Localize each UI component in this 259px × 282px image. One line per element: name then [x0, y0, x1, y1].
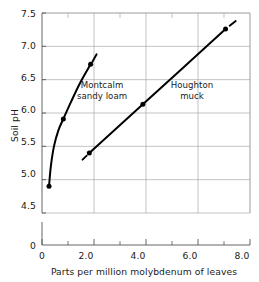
- y-tick-label-6.5: 6.5: [2, 72, 36, 83]
- series-0-data-point: [88, 62, 93, 67]
- y-tick-label-4.5: 4.5: [2, 200, 36, 211]
- series-1-end-dash: [230, 21, 236, 26]
- y-tick-label-5.5: 5.5: [2, 136, 36, 147]
- x-tick-label-8.0: 8.0: [225, 250, 259, 261]
- series-label-montcalm-line1: Montcalm: [68, 80, 136, 91]
- series-label-houghton: Houghton muck: [161, 80, 223, 101]
- y-tick-label-6.0: 6.0: [2, 104, 36, 115]
- chart-svg: [0, 0, 259, 282]
- series-1-start-dash: [83, 156, 87, 160]
- chart-root: Soil pH Parts per million molybdenum of …: [0, 0, 259, 282]
- x-axis-title: Parts per million molybdenum of leaves: [36, 266, 252, 277]
- x-origin-label: 0: [25, 250, 59, 261]
- series-label-houghton-line1: Houghton: [161, 80, 223, 91]
- series-label-montcalm: Montcalm sandy loam: [68, 80, 136, 101]
- x-tick-label-2.0: 2.0: [69, 250, 103, 261]
- x-tick-label-6.0: 6.0: [173, 250, 207, 261]
- series-1-data-point: [140, 102, 145, 107]
- y-tick-label-5.0: 5.0: [2, 168, 36, 179]
- series-0-data-point: [47, 184, 52, 189]
- y-tick-label-7.0: 7.0: [2, 40, 36, 51]
- x-tick-label-4.0: 4.0: [121, 250, 155, 261]
- chart-figure: [0, 0, 259, 282]
- series-0-data-point: [61, 117, 66, 122]
- series-label-houghton-line2: muck: [161, 91, 223, 102]
- series-label-montcalm-line2: sandy loam: [68, 91, 136, 102]
- series-0-end-dash: [92, 54, 96, 61]
- series-1-data-point: [223, 27, 228, 32]
- series-1-data-point: [87, 151, 92, 156]
- y-tick-label-7.5: 7.5: [2, 8, 36, 19]
